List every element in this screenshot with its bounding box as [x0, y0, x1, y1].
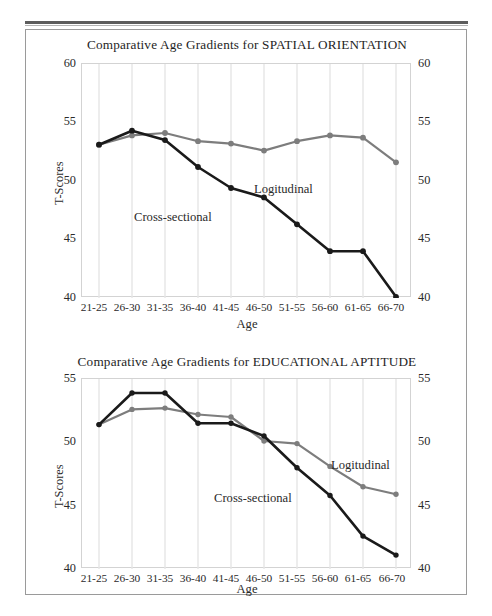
ytick-right-60-top: 60 [418, 57, 444, 69]
xtick-top-9: 66-70 [370, 302, 412, 313]
series-label-cross-sectional-top: Cross-sectional [134, 210, 212, 225]
ytick-left-50-bottom: 50 [50, 435, 76, 447]
chart-title-spatial-orientation: Comparative Age Gradients for SPATIAL OR… [26, 37, 468, 53]
chart-educational-aptitude: Comparative Age Gradients for EDUCATIONA… [26, 330, 468, 596]
plot-svg-spatial-orientation [82, 64, 412, 298]
series-label-cross-sectional-bottom: Cross-sectional [214, 491, 292, 506]
plot-area-educational-aptitude [81, 378, 411, 568]
ytick-right-50-bottom: 50 [418, 435, 444, 447]
ytick-left-60-top: 60 [50, 57, 76, 69]
ytick-right-50-top: 50 [418, 174, 444, 186]
figure-frame: Comparative Age Gradients for SPATIAL OR… [25, 29, 467, 595]
page-top-rule-thin [25, 25, 468, 26]
series-label-longitudinal-top: Logitudinal [254, 182, 313, 197]
yaxis-label-bottom: T-Scores [52, 464, 67, 508]
ytick-right-40-top: 40 [418, 291, 444, 303]
ytick-right-45-bottom: 45 [418, 499, 444, 511]
xaxis-label-bottom: Age [26, 582, 468, 597]
series-label-longitudinal-bottom: Logitudinal [331, 458, 390, 473]
ytick-left-55-top: 55 [50, 115, 76, 127]
figure-page: Comparative Age Gradients for SPATIAL OR… [0, 0, 492, 616]
series-longitudinal-top [96, 130, 399, 165]
ytick-right-40-bottom: 40 [418, 562, 444, 574]
series-cross-sectional-bottom [96, 390, 398, 558]
gridlines-vertical-bottom [99, 379, 396, 569]
plot-svg-educational-aptitude [82, 379, 412, 569]
plot-area-spatial-orientation [81, 63, 411, 297]
chart-title-educational-aptitude: Comparative Age Gradients for EDUCATIONA… [26, 354, 468, 370]
ytick-right-55-top: 55 [418, 115, 444, 127]
page-top-rule [25, 21, 468, 24]
ytick-right-55-bottom: 55 [418, 372, 444, 384]
ytick-left-45-top: 45 [50, 232, 76, 244]
ytick-right-45-top: 45 [418, 232, 444, 244]
yaxis-label-top: T-Scores [52, 161, 67, 205]
chart-spatial-orientation: Comparative Age Gradients for SPATIAL OR… [26, 30, 468, 330]
series-longitudinal-bottom [96, 405, 398, 497]
gridlines-vertical-top [99, 64, 396, 298]
ytick-left-55-bottom: 55 [50, 372, 76, 384]
